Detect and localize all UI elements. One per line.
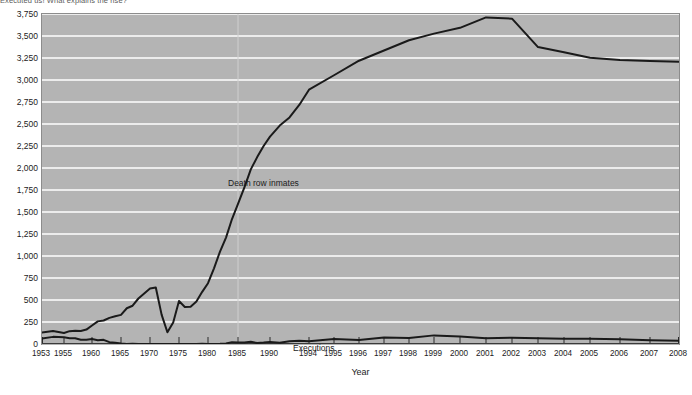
y-tick-label-3000: 3,000 (0, 75, 38, 85)
x-tick-label-2003: 2003 (528, 349, 546, 358)
y-tick-label-2500: 2,500 (0, 119, 38, 129)
x-tick-label-2004: 2004 (554, 349, 572, 358)
x-axis-title: Year (41, 367, 680, 377)
x-tick-label-2006: 2006 (610, 349, 628, 358)
x-tick-label-1990: 1990 (260, 349, 278, 358)
x-tick-label-1960: 1960 (82, 349, 100, 358)
y-tick-label-1250: 1,250 (0, 229, 38, 239)
y-tick-label-0: 0 (0, 339, 38, 349)
x-tick-label-2005: 2005 (580, 349, 598, 358)
y-tick-label-750: 750 (0, 273, 38, 283)
page-caption: Executed us! What explains the rise? (0, 0, 420, 8)
y-tick-label-1750: 1,750 (0, 185, 38, 195)
x-tick-label-1980: 1980 (198, 349, 216, 358)
y-tick-label-2000: 2,000 (0, 163, 38, 173)
series-line-death-row-inmates (42, 17, 679, 333)
x-tick-label-1994: 1994 (299, 349, 317, 358)
series-label-death-row-inmates: Death row inmates (228, 178, 299, 188)
y-tick-label-2250: 2,250 (0, 141, 38, 151)
x-tick-label-1996: 1996 (349, 349, 367, 358)
x-tick-label-2001: 2001 (476, 349, 494, 358)
x-tick-label-2000: 2000 (450, 349, 468, 358)
y-tick-label-1500: 1,500 (0, 207, 38, 217)
chart-page: Executed us! What explains the rise? 025… (0, 0, 692, 395)
x-tick-label-1999: 1999 (424, 349, 442, 358)
x-tick-label-1985: 1985 (228, 349, 246, 358)
x-tick-label-2002: 2002 (502, 349, 520, 358)
y-tick-label-3750: 3,750 (0, 9, 38, 19)
y-tick-label-500: 500 (0, 295, 38, 305)
y-tick-label-3250: 3,250 (0, 53, 38, 63)
y-tick-label-250: 250 (0, 317, 38, 327)
x-tick-label-1965: 1965 (111, 349, 129, 358)
series-line-executions (42, 335, 679, 344)
x-axis-tick-labels: 1953195519601965197019751980198519901994… (41, 349, 680, 363)
y-axis-tick-labels: 02505007501,0001,2501,5001,7502,0002,250… (0, 13, 38, 345)
x-tick-label-1975: 1975 (169, 349, 187, 358)
x-tick-label-2008: 2008 (669, 349, 687, 358)
chart-figure: 02505007501,0001,2501,5001,7502,0002,250… (0, 11, 692, 386)
x-tick-label-2007: 2007 (640, 349, 658, 358)
x-tick-label-1970: 1970 (140, 349, 158, 358)
y-tick-label-3500: 3,500 (0, 31, 38, 41)
series-lines (42, 17, 679, 344)
chart-svg (42, 14, 679, 344)
y-tick-label-1000: 1,000 (0, 251, 38, 261)
x-tick-label-1998: 1998 (399, 349, 417, 358)
plot-area: Death row inmates Executions (41, 13, 680, 345)
x-tick-label-1953: 1953 (32, 349, 50, 358)
x-tick-label-1997: 1997 (374, 349, 392, 358)
x-tick-label-1995: 1995 (324, 349, 342, 358)
y-tick-label-2750: 2,750 (0, 97, 38, 107)
x-tick-label-1955: 1955 (54, 349, 72, 358)
